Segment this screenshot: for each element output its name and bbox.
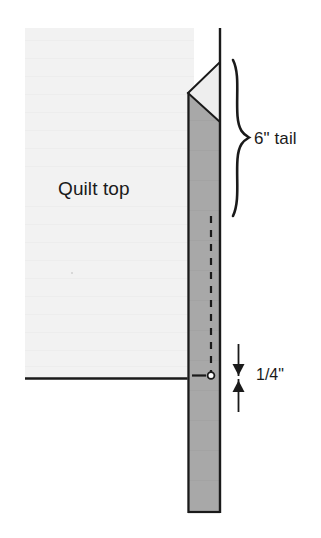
quilt-top-label: Quilt top xyxy=(58,178,130,200)
diagram-canvas xyxy=(0,0,321,538)
scan-speck xyxy=(71,272,73,274)
binding-strip xyxy=(188,92,221,513)
quilt-binding-diagram: Quilt top 6" tail 1/4" xyxy=(0,0,321,538)
quilt-top-panel xyxy=(25,28,194,378)
seam-allowance-label: 1/4" xyxy=(256,366,284,384)
quarter-inch-arrow-up xyxy=(233,381,245,393)
quarter-inch-arrow-down xyxy=(233,364,245,376)
curly-brace xyxy=(233,60,249,216)
stitch-start-dot xyxy=(208,372,215,379)
tail-length-label: 6" tail xyxy=(254,129,297,149)
